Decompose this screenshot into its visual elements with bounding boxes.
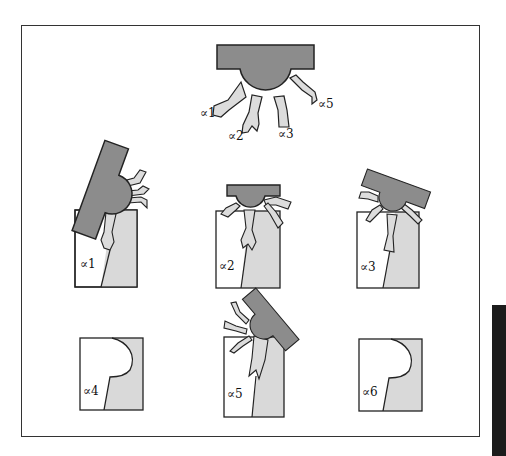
panel-label: ∝6 [362,385,378,399]
panel-alpha-1: ∝1 [72,140,149,287]
panel-alpha-2: ∝2 [216,185,291,288]
panel-label: ∝4 [83,384,99,398]
arm-3 [274,96,289,127]
panel-label: ∝3 [360,260,376,274]
panel-alpha-5: ∝5 [224,288,299,417]
panel-alpha-4: ∝4 [80,338,143,410]
diagram-canvas: ∝1 ∝2 ∝3 ∝5 ∝1 ∝2 [0,0,506,456]
label-arm-1: ∝1 [200,106,216,120]
panel-alpha-3: ∝3 [357,169,431,288]
arm-5 [290,75,317,104]
panel-label: ∝2 [219,259,235,273]
label-arm-5: ∝5 [318,97,334,111]
panel-alpha-6: ∝6 [359,339,422,411]
label-arm-2: ∝2 [228,129,244,143]
reference-molecule: ∝1 ∝2 ∝3 ∝5 [200,45,334,143]
panel-label: ∝5 [227,387,243,401]
arm-2 [242,95,262,133]
arm-1 [213,82,246,117]
label-arm-3: ∝3 [278,127,294,141]
panel-label: ∝1 [80,257,96,271]
